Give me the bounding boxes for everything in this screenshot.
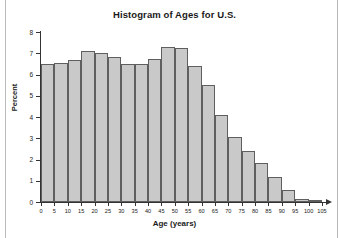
y-tick-label: 1: [13, 177, 33, 184]
x-tick-mark: [295, 202, 296, 206]
histogram-bar: [255, 163, 268, 202]
x-tick-mark: [108, 202, 109, 206]
histogram-bar: [121, 64, 134, 202]
histogram-bar: [95, 53, 108, 202]
y-tick-label: 2: [13, 156, 33, 163]
x-tick-mark: [188, 202, 189, 206]
histogram-bar: [295, 199, 308, 202]
x-tick-mark: [41, 202, 42, 206]
y-tick-label: 6: [13, 71, 33, 78]
x-tick-mark: [255, 202, 256, 206]
x-axis-arrow-icon: [326, 199, 332, 205]
histogram-bar: [215, 115, 228, 202]
x-tick-mark: [268, 202, 269, 206]
x-tick-mark: [282, 202, 283, 206]
x-axis-line: [40, 202, 328, 203]
x-tick-mark: [95, 202, 96, 206]
y-tick-label: 7: [13, 50, 33, 57]
x-tick-mark: [202, 202, 203, 206]
x-tick-mark: [322, 202, 323, 206]
y-tick-label: 0: [13, 199, 33, 206]
chart-title: Histogram of Ages for U.S.: [0, 9, 349, 20]
histogram-bar: [161, 47, 174, 202]
x-tick-mark: [54, 202, 55, 206]
x-tick-mark: [135, 202, 136, 206]
x-axis-title: Age (years): [0, 219, 349, 228]
x-tick-mark: [121, 202, 122, 206]
histogram-bar: [188, 66, 201, 202]
histogram-bar: [54, 63, 67, 202]
histogram-bar: [282, 190, 295, 202]
histogram-bar: [242, 151, 255, 202]
y-tick-label: 5: [13, 92, 33, 99]
histogram-bar: [108, 57, 121, 202]
x-tick-mark: [175, 202, 176, 206]
histogram-bar: [175, 48, 188, 202]
histogram-bar: [202, 85, 215, 202]
x-tick-mark: [242, 202, 243, 206]
histogram-bar: [268, 177, 281, 203]
histogram-figure: Histogram of Ages for U.S. Percent 01234…: [0, 0, 349, 238]
plot-area: [41, 32, 322, 202]
x-tick-mark: [148, 202, 149, 206]
x-tick-mark: [215, 202, 216, 206]
y-tick-label: 4: [13, 114, 33, 121]
x-tick-mark: [309, 202, 310, 206]
x-tick-mark: [81, 202, 82, 206]
x-tick-mark: [228, 202, 229, 206]
histogram-bar: [309, 200, 322, 202]
x-tick-mark: [161, 202, 162, 206]
histogram-bar: [228, 137, 241, 202]
histogram-bar: [81, 51, 94, 202]
histogram-bar: [68, 60, 81, 202]
y-tick-label: 8: [13, 29, 33, 36]
histogram-bar: [41, 64, 54, 202]
x-tick-label: 105: [314, 208, 330, 215]
x-tick-mark: [68, 202, 69, 206]
histogram-bar: [148, 59, 161, 202]
y-tick-label: 3: [13, 135, 33, 142]
histogram-bar: [135, 64, 148, 202]
